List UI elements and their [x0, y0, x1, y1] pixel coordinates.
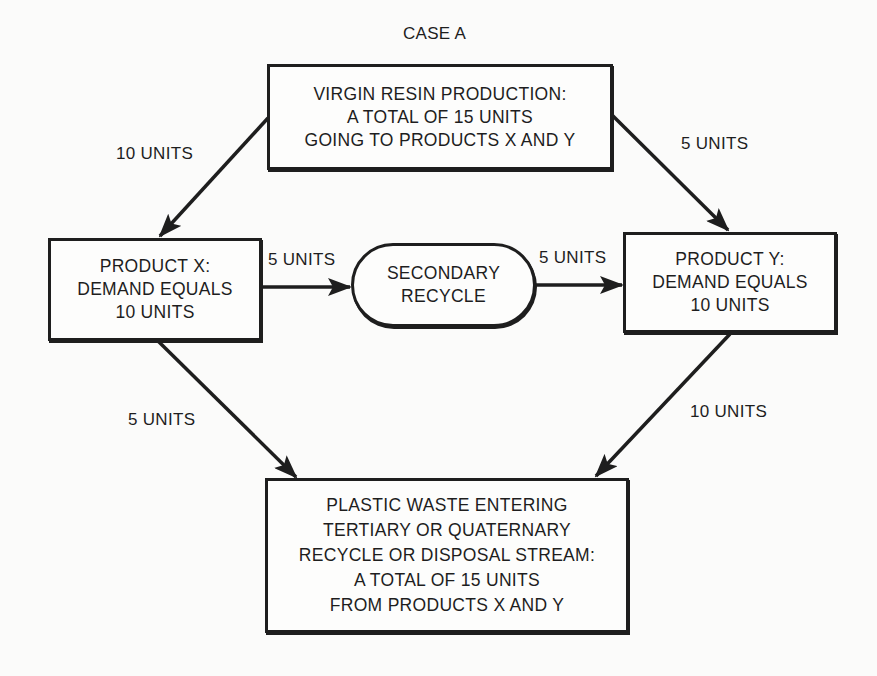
- node-text: VIRGIN RESIN PRODUCTION:: [313, 83, 566, 106]
- edge-label-x-to-waste: 5 UNITS: [128, 410, 195, 430]
- node-text: RECYCLE: [401, 285, 486, 308]
- node-plastic-waste: PLASTIC WASTE ENTERING TERTIARY OR QUATE…: [265, 478, 629, 633]
- node-text: DEMAND EQUALS: [77, 278, 233, 301]
- diagram-title: CASE A: [403, 24, 466, 44]
- edge-label-x-to-secondary: 5 UNITS: [268, 250, 335, 270]
- diagram-canvas: CASE A VIRGIN RESIN PRODUCTION: A TOTAL …: [0, 0, 877, 676]
- node-text: 10 UNITS: [690, 294, 769, 317]
- edge-label-secondary-to-y: 5 UNITS: [539, 248, 606, 268]
- node-text: 10 UNITS: [115, 301, 194, 324]
- edge-label-virgin-to-x: 10 UNITS: [116, 144, 193, 164]
- node-text: DEMAND EQUALS: [652, 271, 808, 294]
- node-text: RECYCLE OR DISPOSAL STREAM:: [299, 543, 595, 568]
- node-text: PLASTIC WASTE ENTERING: [326, 493, 567, 518]
- node-text: A TOTAL OF 15 UNITS: [354, 568, 540, 593]
- arrow-x-to-waste: [158, 341, 296, 477]
- node-text: FROM PRODUCTS X AND Y: [330, 593, 564, 618]
- node-text: A TOTAL OF 15 UNITS: [347, 106, 533, 129]
- arrow-virgin-to-y: [612, 115, 728, 230]
- node-secondary-recycle: SECONDARY RECYCLE: [351, 243, 536, 327]
- node-text: SECONDARY: [387, 262, 500, 285]
- node-product-y: PRODUCT Y: DEMAND EQUALS 10 UNITS: [623, 232, 837, 333]
- node-virgin-resin: VIRGIN RESIN PRODUCTION: A TOTAL OF 15 U…: [267, 64, 613, 170]
- node-text: GOING TO PRODUCTS X AND Y: [304, 129, 575, 152]
- node-text: PRODUCT Y:: [675, 248, 784, 271]
- node-text: TERTIARY OR QUATERNARY: [323, 518, 571, 543]
- node-text: PRODUCT X:: [100, 255, 211, 278]
- edge-label-y-to-waste: 10 UNITS: [690, 402, 767, 422]
- arrow-virgin-to-x: [160, 118, 268, 236]
- node-product-x: PRODUCT X: DEMAND EQUALS 10 UNITS: [48, 238, 262, 341]
- edge-label-virgin-to-y: 5 UNITS: [681, 134, 748, 154]
